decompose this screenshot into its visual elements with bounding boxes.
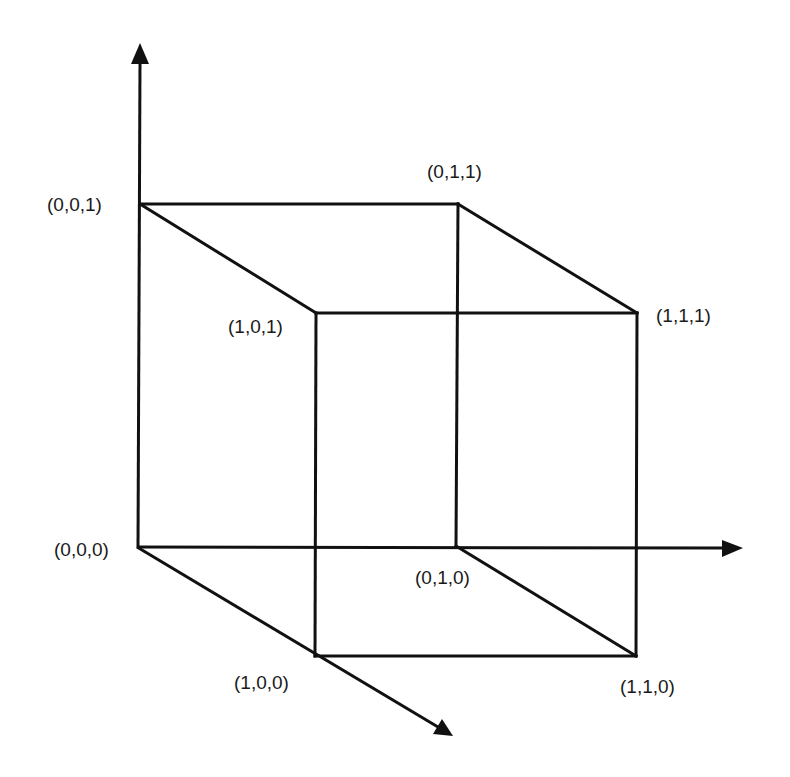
label-110: (1,1,0) — [620, 676, 675, 697]
label-111: (1,1,1) — [656, 305, 711, 326]
edge-001-101 — [140, 204, 316, 313]
label-101: (1,0,1) — [228, 316, 283, 337]
edge-010-110 — [456, 546, 636, 656]
label-001: (0,0,1) — [47, 194, 102, 215]
label-011: (0,1,1) — [427, 161, 482, 182]
edge-011-111 — [458, 204, 637, 313]
vertical-axis — [138, 62, 140, 548]
edge-011-010 — [456, 204, 458, 546]
vertical-axis-arrow-icon — [131, 43, 149, 64]
label-000: (0,0,0) — [54, 539, 109, 560]
horizontal-axis-arrow-icon — [722, 540, 743, 557]
unit-cube-diagram: (0,0,1) (0,1,1) (1,0,1) (1,1,1) (0,0,0) … — [0, 0, 790, 777]
cube-edges — [140, 204, 637, 656]
diagonal-axis — [137, 547, 438, 727]
label-100: (1,0,0) — [234, 672, 289, 693]
axes — [131, 43, 743, 736]
vertex-labels: (0,0,1) (0,1,1) (1,0,1) (1,1,1) (0,0,0) … — [47, 161, 711, 697]
edge-111-110 — [636, 313, 637, 656]
label-010: (0,1,0) — [415, 567, 470, 588]
edge-101-100 — [315, 313, 316, 656]
